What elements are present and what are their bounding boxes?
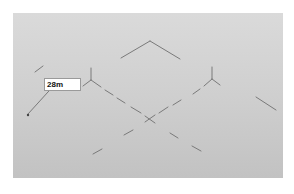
line-drawing [13,13,283,178]
drawing-canvas[interactable]: 28m [13,13,283,178]
measurement-label[interactable]: 28m [44,78,81,91]
